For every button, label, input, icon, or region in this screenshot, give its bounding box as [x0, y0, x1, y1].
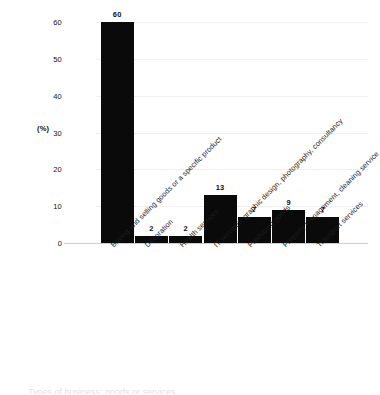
bar[interactable] — [101, 22, 134, 243]
x-axis-labels: Buying and selling goods or a specific p… — [100, 246, 374, 395]
y-axis-tick-label: 20 — [2, 165, 62, 174]
bar-column[interactable]: 13 — [204, 22, 237, 243]
y-axis-tick-label: 60 — [2, 18, 62, 27]
bar-value-label: 13 — [216, 183, 225, 192]
y-axis-tick-label: 0 — [2, 239, 62, 248]
footer-caption: Types of business: goods or services — [28, 387, 348, 394]
bar-column[interactable]: 60 — [101, 22, 134, 243]
y-axis-tick-label: 10 — [2, 202, 62, 211]
bar-column[interactable]: 2 — [169, 22, 202, 243]
plot-area: 0102030405060 602213797 — [100, 22, 340, 243]
bar-series: 602213797 — [100, 22, 340, 243]
y-axis-tick-label: 50 — [2, 54, 62, 63]
bar-value-label: 60 — [113, 10, 122, 19]
bar-value-label: 2 — [184, 224, 188, 233]
y-axis-tick-label: 30 — [2, 128, 62, 137]
y-axis-tick-label: 40 — [2, 91, 62, 100]
